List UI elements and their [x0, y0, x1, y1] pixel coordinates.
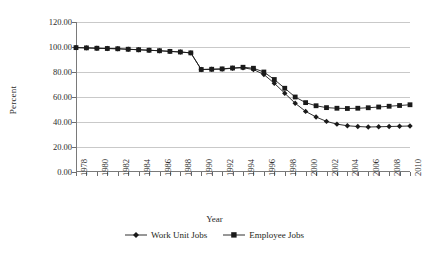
legend-item[interactable]: Work Unit Jobs [125, 230, 207, 240]
x-tick-label: 1988 [184, 159, 193, 176]
data-point-square [136, 47, 141, 52]
legend-marker-diamond [125, 230, 147, 240]
x-tick-label: 1984 [143, 159, 152, 176]
data-point-square [314, 103, 319, 108]
data-point-square [199, 67, 204, 72]
x-axis-tick-labels: 1978198019821984198619881990199219941996… [76, 172, 410, 216]
x-axis-title: Year [0, 214, 429, 224]
data-point-square [355, 106, 360, 111]
y-tick-label: 120.00 [28, 18, 72, 27]
x-tick-label: 2006 [372, 159, 381, 176]
x-tick-label: 1998 [289, 159, 298, 176]
series-line [76, 48, 410, 109]
y-tick-label: 80.00 [28, 68, 72, 77]
y-tick-label: 60.00 [28, 93, 72, 102]
data-point-square [272, 77, 277, 82]
x-tick-label: 1994 [247, 159, 256, 176]
data-point-diamond [407, 123, 412, 128]
x-tick-label: 1982 [122, 159, 131, 176]
legend-label: Work Unit Jobs [151, 230, 207, 240]
data-point-square [209, 67, 214, 72]
y-tick-label: 40.00 [28, 118, 72, 127]
data-point-square [157, 48, 162, 53]
x-tick-label: 2000 [310, 159, 319, 176]
y-tick-label: 100.00 [28, 43, 72, 52]
legend-item[interactable]: Employee Jobs [223, 230, 304, 240]
data-point-diamond [313, 114, 318, 119]
x-tick-mark [410, 172, 411, 176]
data-point-diamond [355, 124, 360, 129]
data-point-square [376, 105, 381, 110]
data-point-diamond [397, 124, 402, 129]
x-tick-label: 1996 [268, 159, 277, 176]
data-point-square [74, 45, 79, 50]
data-point-diamond [366, 124, 371, 129]
legend-label: Employee Jobs [249, 230, 304, 240]
data-point-square [220, 66, 225, 71]
data-point-square [303, 100, 308, 105]
series-line [76, 48, 410, 127]
data-point-diamond [386, 124, 391, 129]
x-tick-label: 1980 [101, 159, 110, 176]
data-point-square [126, 47, 131, 52]
data-point-square [241, 65, 246, 70]
data-point-square [147, 48, 152, 53]
data-point-square [345, 106, 350, 111]
data-point-square [408, 102, 413, 107]
chart-legend: Work Unit JobsEmployee Jobs [0, 230, 429, 240]
x-tick-label: 2008 [393, 159, 402, 176]
data-point-square [387, 104, 392, 109]
data-point-square [84, 45, 89, 50]
x-tick-label: 2002 [331, 159, 340, 176]
legend-marker-square [223, 230, 245, 240]
y-tick-label: 0.00 [28, 168, 72, 177]
data-point-square [105, 46, 110, 51]
data-point-square [168, 49, 173, 54]
x-tick-label: 2010 [414, 159, 423, 176]
chart-figure: Percent 120.00100.0080.0060.0040.0020.00… [0, 0, 429, 256]
data-point-diamond [345, 123, 350, 128]
data-point-square [188, 50, 193, 55]
data-point-square [397, 103, 402, 108]
x-tick-label: 2004 [351, 159, 360, 176]
data-point-square [230, 66, 235, 71]
x-tick-label: 1992 [226, 159, 235, 176]
data-series-layer [76, 22, 410, 172]
x-tick-label: 1986 [164, 159, 173, 176]
data-point-diamond [324, 119, 329, 124]
x-tick-label: 1990 [205, 159, 214, 176]
data-point-square [366, 105, 371, 110]
data-point-square [293, 95, 298, 100]
data-point-square [251, 66, 256, 71]
x-tick-label: 1978 [80, 159, 89, 176]
data-point-square [324, 105, 329, 110]
data-point-square [282, 86, 287, 91]
data-point-square [115, 46, 120, 51]
y-tick-label: 20.00 [28, 143, 72, 152]
data-point-square [178, 50, 183, 55]
data-point-diamond [376, 124, 381, 129]
data-point-square [261, 70, 266, 75]
data-point-square [94, 46, 99, 51]
plot-area [76, 22, 410, 172]
data-point-diamond [334, 121, 339, 126]
y-axis-title: Percent [8, 0, 18, 60]
data-point-square [335, 106, 340, 111]
